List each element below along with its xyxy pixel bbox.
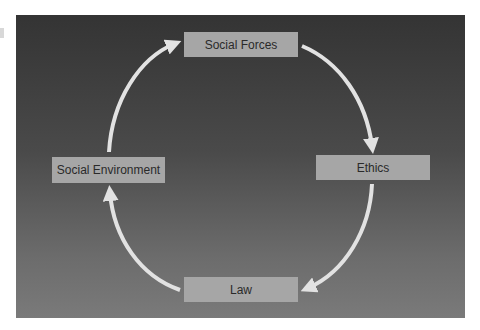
node-ethics: Ethics [316, 155, 430, 180]
arrow-forces-to-ethics [302, 46, 372, 146]
arrow-law-to-environment [110, 193, 180, 290]
node-label: Social Environment [57, 163, 160, 177]
arrow-environment-to-forces [109, 44, 174, 152]
node-social-environment: Social Environment [52, 157, 165, 183]
arrow-ethics-to-law [308, 184, 372, 288]
node-label: Ethics [357, 161, 390, 175]
node-law: Law [184, 277, 298, 302]
node-social-forces: Social Forces [184, 32, 298, 57]
node-label: Law [230, 283, 252, 297]
node-label: Social Forces [205, 38, 278, 52]
